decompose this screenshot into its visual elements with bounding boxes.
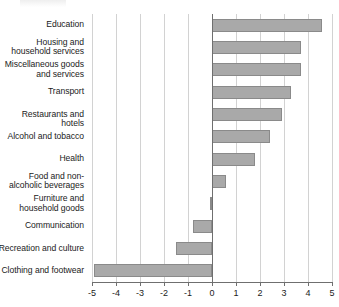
category-label-line: Clothing and footwear (0, 266, 84, 276)
x-tick-label: -5 (82, 288, 102, 299)
category-label-line: alcoholic beverages (0, 181, 84, 191)
bar (212, 19, 322, 32)
x-tick-label: 1 (226, 288, 246, 299)
category-label-line: and services (0, 70, 84, 80)
x-tick-label: 5 (322, 288, 339, 299)
x-tick-label: 2 (250, 288, 270, 299)
category-label-line: Communication (0, 221, 84, 231)
bar (212, 153, 255, 166)
bar (212, 86, 291, 99)
x-tick-mark (188, 282, 189, 286)
gridline (284, 14, 285, 282)
category-label: Recreation and culture (0, 244, 84, 254)
gridline (308, 14, 309, 282)
category-label: Health (0, 154, 84, 164)
category-label: Clothing and footwear (0, 266, 84, 276)
category-label: Restaurants and hotels (0, 110, 84, 129)
gridline (332, 14, 333, 282)
value-axis: -5-4-3-2-1012345 (92, 282, 332, 307)
cropped-text-remnant (20, 0, 66, 7)
gridline (140, 14, 141, 282)
x-tick-label: 3 (274, 288, 294, 299)
category-label-line: Education (0, 20, 84, 30)
gridline (236, 14, 237, 282)
category-label: Miscellaneous goodsand services (0, 60, 84, 79)
x-tick-label: -2 (154, 288, 174, 299)
category-label-line: Alcohol and tobacco (0, 132, 84, 142)
category-label: Food and non-alcoholic beverages (0, 172, 84, 191)
plot-area (92, 14, 332, 282)
x-tick-mark (164, 282, 165, 286)
x-tick-label: -4 (106, 288, 126, 299)
bar (193, 220, 212, 233)
category-label-line: household goods (0, 204, 84, 214)
x-tick-mark (140, 282, 141, 286)
bar (176, 242, 212, 255)
bar (94, 264, 212, 277)
bar (212, 41, 301, 54)
bar (212, 63, 301, 76)
x-tick-label: -1 (178, 288, 198, 299)
x-tick-mark (260, 282, 261, 286)
category-label: Alcohol and tobacco (0, 132, 84, 142)
category-label-line: Transport (0, 87, 84, 97)
x-tick-mark (116, 282, 117, 286)
x-tick-mark (212, 282, 213, 286)
bar (212, 175, 226, 188)
x-tick-label: 0 (202, 288, 222, 299)
category-label-line: Health (0, 154, 84, 164)
x-tick-label: 4 (298, 288, 318, 299)
category-label-line: Recreation and culture (0, 244, 84, 254)
category-label: Housing andhousehold services (0, 38, 84, 57)
x-tick-mark (92, 282, 93, 286)
gridline (92, 14, 93, 282)
category-label-line: Restaurants and hotels (0, 110, 84, 129)
x-tick-label: -3 (130, 288, 150, 299)
category-label: Education (0, 20, 84, 30)
x-tick-mark (332, 282, 333, 286)
x-tick-mark (236, 282, 237, 286)
category-label: Transport (0, 87, 84, 97)
bar (212, 108, 282, 121)
category-label: Furniture andhousehold goods (0, 194, 84, 213)
category-axis-labels: EducationHousing andhousehold servicesMi… (0, 14, 88, 282)
gridline (116, 14, 117, 282)
category-label: Communication (0, 221, 84, 231)
x-tick-mark (284, 282, 285, 286)
zero-line (212, 14, 213, 282)
gridline (164, 14, 165, 282)
gridline (260, 14, 261, 282)
category-label-line: household services (0, 47, 84, 57)
x-tick-mark (308, 282, 309, 286)
bar (212, 130, 270, 143)
